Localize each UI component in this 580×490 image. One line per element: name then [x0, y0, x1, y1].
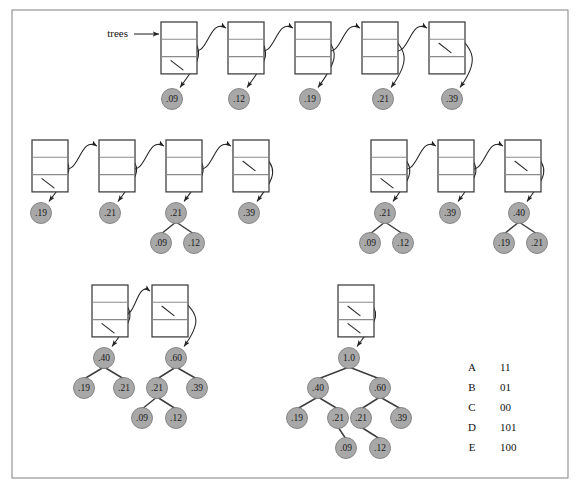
code-bits: 100 [500, 441, 517, 453]
tree-node-value: .39 [243, 208, 255, 218]
tree-node-value: .09 [364, 238, 376, 248]
tree-node-circle: .12 [370, 438, 391, 459]
code-bits: 01 [500, 381, 511, 393]
list-node [233, 140, 269, 192]
code-symbol: A [468, 361, 476, 373]
tree-node-circle: .09 [336, 438, 357, 459]
tree-node-circle: .39 [440, 203, 461, 224]
tree-node-circle: .40 [308, 378, 329, 399]
huffman-figure: .09.12.19.21.39.19.21.21.09.12.39.21.09.… [0, 0, 580, 490]
tree-node-circle: .12 [229, 89, 250, 110]
tree-node-circle: .21 [328, 408, 349, 429]
tree-node-value: .12 [170, 413, 182, 423]
tree-node-circle: .19 [300, 89, 321, 110]
tree-node-value: .21 [332, 413, 344, 423]
tree-node-value: .09 [340, 443, 352, 453]
tree-node-circle: .21 [373, 89, 394, 110]
tree-node-circle: .12 [166, 408, 187, 429]
tree-node-circle: .12 [184, 233, 205, 254]
tree-node-circle: .19 [31, 203, 52, 224]
tree-node-circle: .39 [442, 89, 463, 110]
tree-node-circle: .19 [74, 378, 95, 399]
tree-node-value: .39 [444, 208, 456, 218]
code-bits: 11 [500, 361, 511, 373]
tree-node-value: .19 [498, 238, 510, 248]
figure-border [12, 10, 568, 478]
tree-node-value: .12 [374, 443, 386, 453]
tree-node-value: .21 [379, 208, 391, 218]
figure-canvas: .09.12.19.21.39.19.21.21.09.12.39.21.09.… [0, 0, 580, 490]
tree-node-circle: .12 [393, 233, 414, 254]
tree-node-value: .12 [188, 238, 200, 248]
tree-node-value: .09 [155, 238, 167, 248]
tree-node-circle: .60 [166, 348, 187, 369]
tree-node-value: .39 [191, 383, 203, 393]
tree-node-value: .60 [374, 383, 386, 393]
tree-node-value: .21 [377, 94, 389, 104]
list-node [32, 140, 68, 192]
tree-node-value: .21 [104, 208, 116, 218]
list-node [295, 22, 331, 74]
list-node [166, 140, 202, 192]
list-node [505, 140, 541, 192]
tree-node-circle: .21 [100, 203, 121, 224]
list-node [99, 140, 135, 192]
tree-node-circle: .21 [114, 378, 135, 399]
tree-node-value: .21 [151, 383, 163, 393]
tree-node-circle: .21 [351, 408, 372, 429]
tree-node-value: .09 [166, 94, 178, 104]
tree-node-value: .60 [170, 353, 182, 363]
tree-node-circle: .09 [132, 408, 153, 429]
tree-node-value: .40 [98, 353, 110, 363]
tree-node-value: .19 [304, 94, 316, 104]
tree-node-circle: .60 [370, 378, 391, 399]
tree-node-circle: .09 [162, 89, 183, 110]
trees-label: trees [107, 27, 128, 39]
list-node [362, 22, 398, 74]
tree-node-circle: .39 [239, 203, 260, 224]
tree-node-value: .40 [312, 383, 324, 393]
tree-node-value: .39 [395, 413, 407, 423]
tree-node-value: .21 [118, 383, 130, 393]
code-symbol: C [468, 401, 475, 413]
tree-node-circle: .19 [494, 233, 515, 254]
list-node [438, 140, 474, 192]
tree-node-value: 1.0 [343, 353, 355, 363]
list-node [338, 285, 374, 337]
tree-node-circle: .40 [94, 348, 115, 369]
code-symbol: B [468, 381, 475, 393]
tree-node-value: .09 [136, 413, 148, 423]
tree-node-value: .19 [291, 413, 303, 423]
tree-node-value: .40 [513, 208, 525, 218]
tree-node-circle: .40 [509, 203, 530, 224]
tree-node-value: .21 [355, 413, 367, 423]
list-node [152, 285, 188, 337]
tree-node-circle: .21 [147, 378, 168, 399]
tree-node-value: .12 [233, 94, 245, 104]
tree-node-circle: .39 [391, 408, 412, 429]
tree-node-circle: .39 [187, 378, 208, 399]
tree-node-value: .21 [531, 238, 543, 248]
list-node [429, 22, 465, 74]
tree-node-value: .21 [170, 208, 182, 218]
tree-node-circle: .21 [375, 203, 396, 224]
list-node [371, 140, 407, 192]
tree-node-value: .12 [397, 238, 409, 248]
code-symbol: D [468, 421, 476, 433]
tree-node-circle: .19 [287, 408, 308, 429]
list-node [161, 22, 197, 74]
tree-node-circle: 1.0 [339, 348, 360, 369]
code-bits: 00 [500, 401, 512, 413]
tree-node-value: .19 [35, 208, 47, 218]
tree-node-circle: .21 [527, 233, 548, 254]
list-node [228, 22, 264, 74]
code-bits: 101 [500, 421, 517, 433]
tree-node-circle: .21 [166, 203, 187, 224]
tree-node-value: .19 [78, 383, 90, 393]
tree-node-circle: .09 [151, 233, 172, 254]
tree-node-value: .39 [446, 94, 458, 104]
code-symbol: E [469, 441, 476, 453]
tree-node-circle: .09 [360, 233, 381, 254]
list-node [92, 285, 128, 337]
